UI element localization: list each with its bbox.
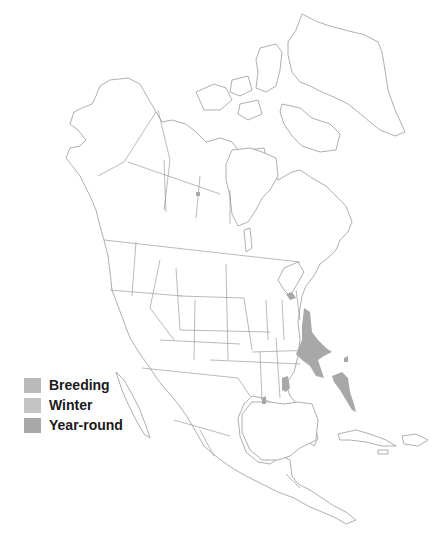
legend-label: Breeding bbox=[49, 377, 110, 393]
cuba bbox=[338, 430, 396, 446]
breeding-swatch bbox=[24, 378, 41, 393]
legend-label: Year-round bbox=[49, 417, 123, 433]
baffin-island bbox=[280, 104, 340, 152]
victoria-island bbox=[196, 84, 232, 110]
jamaica bbox=[378, 450, 388, 454]
arctic-island-b bbox=[238, 100, 262, 120]
legend-item-breeding: Breeding bbox=[24, 375, 123, 395]
arctic-island-a bbox=[230, 76, 252, 96]
legend-item-year-round: Year-round bbox=[24, 415, 123, 435]
legend: Breeding Winter Year-round bbox=[24, 375, 123, 435]
range-midwest-southeast bbox=[296, 308, 332, 378]
gulf-of-mexico bbox=[242, 402, 318, 460]
year-round-swatch bbox=[24, 418, 41, 433]
legend-item-winter: Winter bbox=[24, 395, 123, 415]
ellesmere-island bbox=[256, 44, 282, 92]
range-florida bbox=[332, 372, 356, 412]
legend-label: Winter bbox=[49, 397, 92, 413]
range-map bbox=[0, 0, 448, 538]
hispaniola bbox=[402, 434, 428, 446]
range-saskatchewan bbox=[196, 192, 200, 196]
winter-swatch bbox=[24, 398, 41, 413]
range-south-carolina bbox=[344, 356, 348, 362]
